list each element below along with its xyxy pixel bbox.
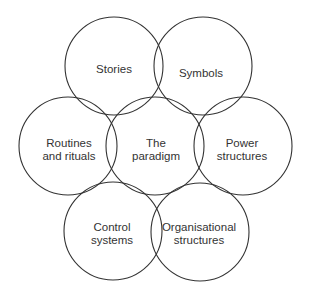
label-power: Power structures [217, 137, 268, 163]
label-line: Control [91, 221, 133, 234]
label-paradigm: The paradigm [132, 137, 180, 163]
label-line: Symbols [179, 67, 223, 80]
label-line: systems [91, 234, 133, 247]
label-line: structures [162, 234, 236, 247]
label-line: Power [217, 137, 268, 150]
label-line: Organisational [162, 221, 236, 234]
label-control: Control systems [91, 221, 133, 247]
label-line: Routines [42, 137, 95, 150]
label-line: Stories [96, 63, 132, 76]
label-symbols: Symbols [179, 67, 223, 80]
label-line: The [132, 137, 180, 150]
label-line: paradigm [132, 150, 180, 163]
label-line: structures [217, 150, 268, 163]
label-organisational: Organisational structures [162, 221, 236, 247]
label-line: and rituals [42, 150, 95, 163]
label-stories: Stories [96, 63, 132, 76]
label-routines: Routines and rituals [42, 137, 95, 163]
